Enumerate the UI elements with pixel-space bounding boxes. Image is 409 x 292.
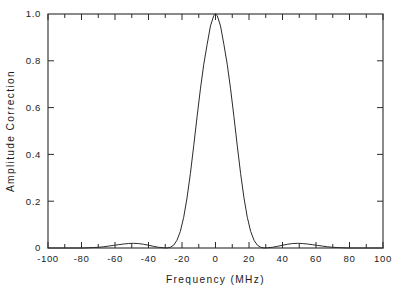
y-axis-tick-labels: 00.20.40.60.81.0 xyxy=(26,8,41,253)
x-tick-label: -20 xyxy=(174,253,190,264)
x-axis-label: Frequency (MHz) xyxy=(166,274,265,285)
y-tick-label: 0.4 xyxy=(26,149,41,160)
plot-frame xyxy=(48,14,383,248)
chart-figure: -100-80-60-40-20020406080100 00.20.40.60… xyxy=(0,0,409,292)
y-tick-label: 1.0 xyxy=(26,8,41,19)
x-tick-label: -60 xyxy=(107,253,123,264)
y-tick-label: 0.2 xyxy=(26,196,41,207)
y-tick-label: 0.6 xyxy=(26,102,41,113)
y-tick-label: 0 xyxy=(35,242,41,253)
x-tick-label: 40 xyxy=(277,253,289,264)
amplitude-correction-chart: -100-80-60-40-20020406080100 00.20.40.60… xyxy=(0,0,409,292)
x-tick-label: 0 xyxy=(213,253,219,264)
y-axis-ticks xyxy=(48,61,383,201)
x-tick-label: -40 xyxy=(141,253,157,264)
x-tick-label: 100 xyxy=(374,253,392,264)
x-axis-tick-labels: -100-80-60-40-20020406080100 xyxy=(37,253,392,264)
x-tick-label: 20 xyxy=(243,253,255,264)
x-tick-label: 80 xyxy=(344,253,356,264)
y-axis-label: Amplitude Correction xyxy=(5,70,16,192)
x-tick-label: 60 xyxy=(310,253,322,264)
x-tick-label: -100 xyxy=(37,253,59,264)
y-tick-label: 0.8 xyxy=(26,55,41,66)
amplitude-correction-curve xyxy=(48,14,383,248)
x-tick-label: -80 xyxy=(74,253,90,264)
x-axis-ticks xyxy=(48,14,383,248)
